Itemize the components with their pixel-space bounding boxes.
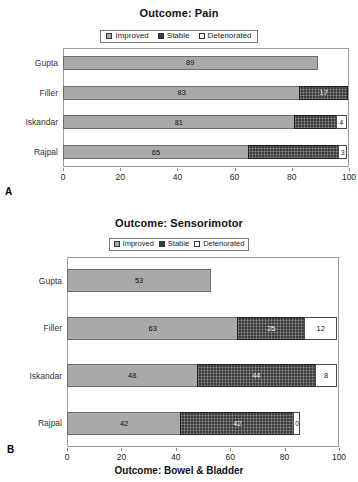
bar-segment-improved[interactable]: 42 — [67, 412, 181, 435]
x-tick — [67, 448, 68, 451]
category-label-filler: Filler — [44, 323, 62, 333]
legend-item-deteriorated: Deteriorated — [194, 240, 244, 248]
x-tick-label: 0 — [65, 452, 70, 462]
bar-segment-improved[interactable]: 48 — [67, 364, 198, 387]
x-tick — [63, 168, 64, 171]
bar-segment-deteriorated[interactable]: 8 — [315, 364, 337, 387]
bar-row[interactable]: 653 — [63, 145, 347, 159]
category-label-iskandar: Iskandar — [25, 117, 58, 127]
x-tick-label: 60 — [225, 452, 234, 462]
bar-segment-improved[interactable]: 63 — [67, 317, 238, 340]
x-tick — [339, 448, 340, 451]
chart-b-legend-wrapper: Improved Stable Deteriorated — [0, 233, 358, 251]
bar-segment-value: 48 — [128, 371, 136, 380]
bar-segment-value: 12 — [317, 324, 325, 333]
bar-segment-deteriorated[interactable]: 4 — [336, 115, 347, 129]
legend-item-stable: Stable — [159, 240, 189, 248]
bar-segment-value: 42 — [233, 419, 241, 428]
bar-segment-value: 8 — [324, 371, 328, 380]
category-label-rajpal: Rajpal — [38, 418, 62, 428]
bar-segment-stable[interactable]: 25 — [237, 317, 305, 340]
category-label-iskandar: Iskandar — [29, 371, 62, 381]
bar-row[interactable]: 8317 — [63, 86, 348, 100]
bar-segment-deteriorated[interactable]: 3 — [338, 145, 347, 159]
x-tick-label: 60 — [230, 172, 239, 182]
x-tick — [235, 168, 236, 171]
bar-row[interactable]: 48448 — [67, 364, 337, 387]
legend-swatch-deteriorated-icon — [194, 241, 200, 247]
bar-segment-stable[interactable] — [294, 115, 337, 129]
chart-b-legend: Improved Stable Deteriorated — [109, 238, 250, 251]
bar-segment-value: 44 — [252, 371, 260, 380]
legend-item-stable: Stable — [158, 32, 190, 40]
chart-b-bars-overlay: Gupta53Filler632512Iskandar48448Rajpal42… — [67, 257, 339, 447]
x-tick-label: 20 — [115, 172, 124, 182]
legend-swatch-stable-icon — [159, 241, 165, 247]
bar-segment-stable[interactable]: 17 — [299, 86, 348, 100]
legend-swatch-improved-icon — [106, 33, 112, 39]
chart-b-plot-block: Gupta53Filler632512Iskandar48448Rajpal42… — [0, 257, 358, 469]
x-tick — [230, 448, 231, 451]
category-label-gupta: Gupta — [39, 276, 62, 286]
category-label-rajpal: Rajpal — [34, 147, 58, 157]
legend-label-stable: Stable — [168, 240, 189, 248]
bar-segment-deteriorated[interactable]: 12 — [304, 317, 337, 340]
bar-segment-improved[interactable]: 81 — [63, 115, 295, 129]
legend-label-stable: Stable — [167, 32, 190, 40]
bar-segment-value: 81 — [175, 118, 183, 127]
x-tick — [292, 168, 293, 171]
bar-segment-value: 25 — [267, 324, 275, 333]
legend-item-improved: Improved — [114, 240, 154, 248]
x-tick — [349, 168, 350, 171]
x-tick-label: 100 — [332, 452, 346, 462]
category-label-gupta: Gupta — [35, 58, 58, 68]
bar-segment-improved[interactable]: 83 — [63, 86, 300, 100]
legend-label-deteriorated: Deteriorated — [203, 240, 244, 248]
chart-b-x-axis: 020406080100 — [67, 448, 339, 466]
chart-b-title: Outcome: Sensorimotor — [0, 217, 358, 229]
x-tick — [285, 448, 286, 451]
legend-swatch-stable-icon — [158, 33, 164, 39]
bar-row[interactable]: 89 — [63, 56, 318, 70]
bar-row[interactable]: 53 — [67, 269, 211, 292]
panel-b-letter: B — [7, 444, 14, 455]
x-tick-label: 40 — [173, 172, 182, 182]
x-tick-label: 40 — [171, 452, 180, 462]
bar-segment-improved[interactable]: 65 — [63, 145, 249, 159]
bar-segment-value: 53 — [135, 276, 143, 285]
bar-segment-improved[interactable]: 89 — [63, 56, 318, 70]
chart-a-title: Outcome: Pain — [0, 7, 358, 19]
x-tick-label: 100 — [342, 172, 356, 182]
x-tick-label: 80 — [287, 172, 296, 182]
bar-segment-value: 3 — [341, 149, 345, 156]
bar-row[interactable]: 814 — [63, 115, 347, 129]
bar-segment-stable[interactable] — [248, 145, 340, 159]
bar-segment-value: 63 — [149, 324, 157, 333]
bar-segment-stable[interactable]: 42 — [180, 412, 294, 435]
category-label-filler: Filler — [40, 88, 58, 98]
bar-segment-value: 83 — [178, 88, 186, 97]
x-tick-label: 20 — [117, 452, 126, 462]
legend-swatch-deteriorated-icon — [199, 33, 205, 39]
panel-b-sensorimotor: Outcome: Sensorimotor Improved Stable De… — [0, 205, 358, 482]
chart-a-plot-block: Gupta89Filler8317Iskandar814Rajpal653 02… — [0, 48, 358, 188]
x-tick — [177, 168, 178, 171]
bar-segment-value: 42 — [120, 419, 128, 428]
x-tick — [121, 448, 122, 451]
chart-a-legend: Improved Stable Deteriorated — [100, 30, 257, 43]
chart-a-x-axis: 020406080100 — [63, 168, 349, 186]
panel-a-pain: Outcome: Pain Improved Stable Deteriorat… — [0, 0, 358, 205]
bar-row[interactable]: 632512 — [67, 317, 337, 340]
bar-segment-deteriorated[interactable]: 0 — [293, 412, 300, 435]
chart-a-bars-overlay: Gupta89Filler8317Iskandar814Rajpal653 — [63, 48, 349, 167]
bar-segment-value: 17 — [320, 88, 328, 97]
x-tick-label: 0 — [61, 172, 66, 182]
x-tick — [120, 168, 121, 171]
bar-segment-value: 0 — [295, 420, 299, 427]
bar-segment-improved[interactable]: 53 — [67, 269, 211, 292]
legend-label-deteriorated: Deteriorated — [208, 32, 252, 40]
legend-label-improved: Improved — [115, 32, 148, 40]
bar-segment-stable[interactable]: 44 — [197, 364, 317, 387]
bar-segment-value: 65 — [152, 148, 160, 157]
bar-row[interactable]: 42420 — [67, 412, 300, 435]
